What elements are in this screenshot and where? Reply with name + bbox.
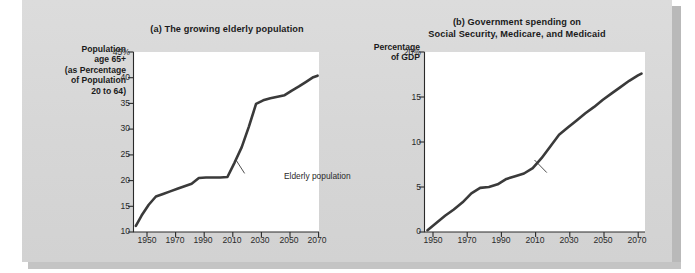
figure-root: (a) The growing elderly population Popul… <box>0 0 695 273</box>
chart-b-title-line: (b) Government spending on <box>392 17 642 29</box>
chart-a-annotation: Elderly population <box>284 172 351 181</box>
panel-shadow-right <box>672 6 681 262</box>
chart-b-title-line: Social Security, Medicare, and Medicaid <box>392 29 642 41</box>
chart-a-title: (a) The growing elderly population <box>112 24 342 36</box>
y-axis-title-line: 20 to 64) <box>30 86 126 96</box>
chart-government-spending: (b) Government spending on Social Securi… <box>362 0 672 262</box>
panel-shadow-bottom <box>28 262 681 269</box>
chart-a-axes <box>125 46 325 242</box>
chart-b-axes <box>416 46 652 242</box>
chart-b-title: (b) Government spending on Social Securi… <box>392 17 642 40</box>
chart-elderly-population: (a) The growing elderly population Popul… <box>22 0 362 262</box>
